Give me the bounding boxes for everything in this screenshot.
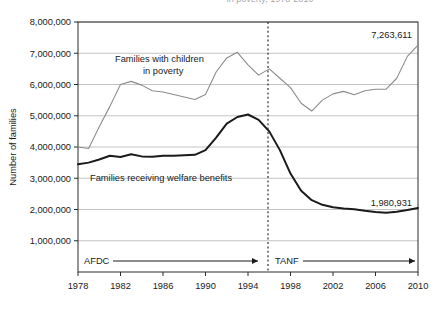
y-axis-title: Number of families [8, 108, 18, 186]
y-tick-label: 5,000,000 [30, 111, 71, 121]
x-tick-label: 2002 [323, 281, 344, 291]
x-tick-label: 1982 [110, 281, 131, 291]
chart-container: in poverty, 1978-2010 1,000,0002,000,000… [0, 0, 440, 309]
welfare-end-value-label: 1,980,931 [371, 198, 412, 208]
welfare-series-label: Families receiving welfare benefits [90, 173, 232, 183]
afdc-era-marker: AFDC [84, 256, 258, 266]
x-tick-label: 1990 [195, 281, 216, 291]
y-tick-label: 1,000,000 [30, 236, 71, 246]
y-tick-label: 3,000,000 [30, 174, 71, 184]
y-axis-ticks: 1,000,0002,000,0003,000,0004,000,0005,00… [30, 17, 78, 246]
chart-title-cropped: in poverty, 1978-2010 [120, 0, 420, 6]
x-tick-label: 2006 [365, 281, 386, 291]
y-tick-label: 6,000,000 [30, 80, 71, 90]
x-tick-label: 1994 [238, 281, 259, 291]
data-series-group [78, 45, 418, 213]
poverty-end-value-label: 7,263,611 [371, 30, 412, 40]
welfare-series-line [78, 115, 418, 213]
x-axis-ticks: 197819821986199019941998200220062010 [68, 272, 429, 291]
x-tick-label: 1978 [68, 281, 89, 291]
x-tick-label: 1986 [153, 281, 174, 291]
afdc-arrow-head [252, 258, 258, 264]
y-tick-label: 7,000,000 [30, 49, 71, 59]
x-tick-label: 2010 [408, 281, 429, 291]
y-tick-label: 4,000,000 [30, 142, 71, 152]
poverty-series-label-line2: in poverty [143, 66, 184, 76]
x-tick-label: 1998 [280, 281, 301, 291]
tanf-label: TANF [275, 256, 299, 266]
y-tick-label: 8,000,000 [30, 17, 71, 27]
afdc-label: AFDC [84, 256, 110, 266]
tanf-arrow-head [409, 258, 415, 264]
poverty-series-label-line1: Families with children [115, 54, 204, 64]
tanf-era-marker: TANF [275, 256, 415, 266]
line-chart: 1,000,0002,000,0003,000,0004,000,0005,00… [0, 0, 440, 309]
y-tick-label: 2,000,000 [30, 205, 71, 215]
